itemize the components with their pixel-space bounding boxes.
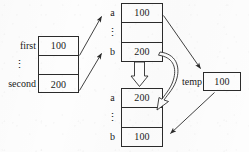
cell-first-value: 100 (39, 37, 78, 56)
cell-temp-value: 100 (204, 73, 240, 90)
arrow-b-to-a-block (131, 62, 148, 87)
label-second: second (0, 79, 36, 89)
label-b-after: b (107, 132, 118, 142)
label-b-before: b (107, 47, 118, 57)
temp-table: 100 (203, 72, 241, 91)
arrow-a-to-temp (164, 16, 201, 69)
label-temp: temp (176, 77, 202, 87)
arrow-first-to-a (80, 17, 102, 56)
arrow-temp-to-b (171, 93, 215, 134)
label-a-before: a (107, 8, 118, 18)
cell-a-before-value: 100 (122, 4, 162, 23)
label-locals-ellipsis: ⋮ (2, 59, 36, 70)
caller-locals-table: 100 200 (38, 36, 79, 93)
arrow-second-to-b (80, 54, 102, 91)
cell-b-before-value: 200 (122, 43, 162, 62)
label-first: first (2, 41, 36, 51)
callee-frame-before-table: 100 200 (121, 3, 163, 62)
cell-a-after-value: 200 (122, 89, 162, 108)
label-frame-top-ellipsis: ⋮ (107, 27, 118, 38)
cell-frame-top-gap (122, 23, 162, 42)
label-a-after: a (107, 93, 118, 103)
swap-diagram: 100 200 first ⋮ second 100 200 a ⋮ b 200… (0, 0, 249, 152)
cell-b-after-value: 100 (122, 128, 162, 147)
label-frame-bottom-ellipsis: ⋮ (107, 112, 118, 123)
cell-frame-bottom-gap (122, 108, 162, 127)
callee-frame-after-table: 200 100 (121, 88, 163, 147)
cell-locals-gap (39, 56, 78, 75)
cell-second-value: 200 (39, 75, 78, 94)
